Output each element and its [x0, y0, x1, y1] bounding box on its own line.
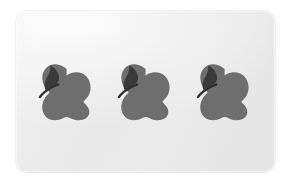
apple-card — [16, 11, 275, 172]
apple-row — [16, 11, 275, 172]
scene-canvas — [0, 0, 292, 185]
apple-glyph-3 — [196, 64, 248, 120]
apple-glyph-2 — [117, 64, 169, 120]
apple-glyph-1 — [38, 64, 90, 120]
apple-icon-3[interactable] — [194, 64, 256, 122]
apple-icon-1[interactable] — [36, 64, 98, 122]
apple-icon-2[interactable] — [115, 64, 177, 122]
